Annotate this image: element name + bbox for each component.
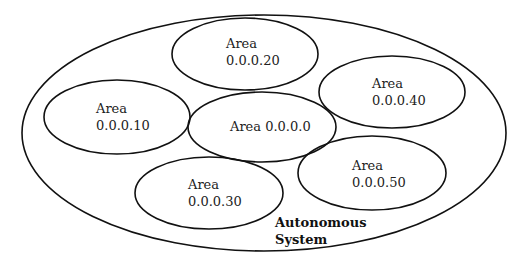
area-label-line2: 0.0.0.20 — [226, 52, 280, 69]
area-label-line1: Area — [96, 100, 150, 117]
area-0-0-0-40-label: Area 0.0.0.40 — [372, 75, 426, 109]
area-0-0-0-20-label: Area 0.0.0.20 — [226, 35, 280, 69]
area-0-0-0-0-label: Area 0.0.0.0 — [230, 118, 311, 135]
area-label-line1: Area — [372, 75, 426, 92]
area-0-0-0-30-label: Area 0.0.0.30 — [188, 176, 242, 210]
autonomous-system-label-line2: System — [275, 231, 367, 248]
area-label-line2: 0.0.0.30 — [188, 193, 242, 210]
area-0-0-0-50-label: Area 0.0.0.50 — [352, 157, 406, 191]
autonomous-system-label: Autonomous System — [275, 214, 367, 248]
area-0-0-0-10-label: Area 0.0.0.10 — [96, 100, 150, 134]
area-label-line1: Area 0.0.0.0 — [230, 118, 311, 135]
area-label-line2: 0.0.0.50 — [352, 174, 406, 191]
area-label-line2: 0.0.0.10 — [96, 117, 150, 134]
area-label-line2: 0.0.0.40 — [372, 92, 426, 109]
area-label-line1: Area — [188, 176, 242, 193]
autonomous-system-label-line1: Autonomous — [275, 214, 367, 231]
area-label-line1: Area — [352, 157, 406, 174]
area-label-line1: Area — [226, 35, 280, 52]
